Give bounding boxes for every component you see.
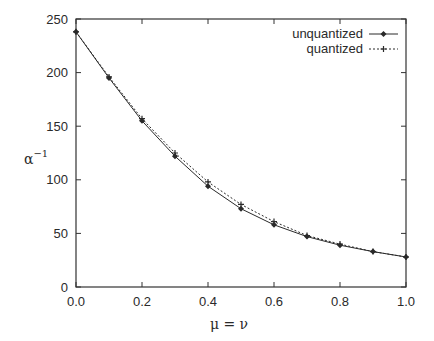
series-line-quantized	[76, 32, 406, 257]
x-tick-label: 0.2	[133, 294, 151, 309]
plot-frame	[76, 19, 406, 287]
x-tick-label: 1.0	[397, 294, 415, 309]
series-layer	[73, 29, 409, 260]
y-tick-label: 200	[46, 65, 68, 80]
legend-label-quantized: quantized	[307, 41, 363, 56]
y-tick-label: 150	[46, 119, 68, 134]
line-chart: 050100150200250 0.00.20.40.60.81.0 α−1 μ…	[0, 0, 434, 341]
legend-marker-diamond-icon	[381, 31, 387, 37]
legend: unquantized quantized	[292, 26, 398, 56]
legend-marker-plus-icon	[381, 46, 387, 52]
x-tick-label: 0.4	[199, 294, 217, 309]
y-tick-label: 100	[46, 172, 68, 187]
data-point-plus-icon	[337, 241, 343, 247]
legend-label-unquantized: unquantized	[292, 26, 363, 41]
x-axis-label: μ = ν	[210, 316, 248, 332]
x-axis-ticks: 0.00.20.40.60.81.0	[67, 19, 415, 309]
x-tick-label: 0.8	[331, 294, 349, 309]
y-axis-label: α−1	[24, 148, 48, 167]
data-point-plus-icon	[238, 201, 244, 207]
x-tick-label: 0.6	[265, 294, 283, 309]
y-tick-label: 50	[54, 226, 68, 241]
series-line-unquantized	[76, 32, 406, 257]
data-point-plus-icon	[403, 254, 409, 260]
x-tick-label: 0.0	[67, 294, 85, 309]
y-tick-label: 250	[46, 12, 68, 27]
y-tick-label: 0	[61, 280, 68, 295]
data-point-plus-icon	[370, 249, 376, 255]
